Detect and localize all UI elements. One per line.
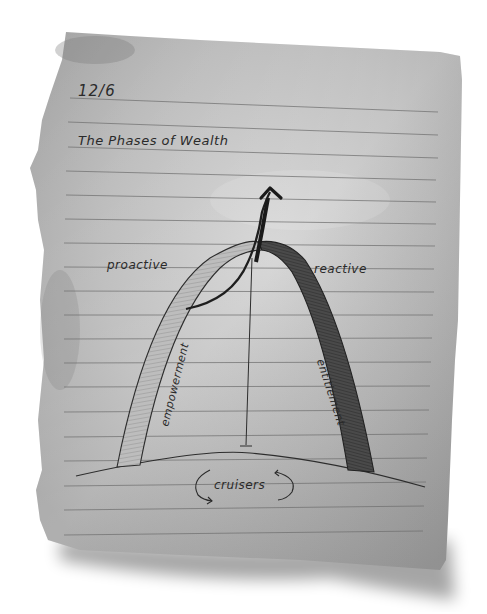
paper-illustration [0,0,487,614]
notepaper-diagram: 12/6 The Phases of Wealth proactive reac… [0,0,487,614]
note-title: The Phases of Wealth [78,133,228,148]
cruisers-label: cruisers [214,478,265,492]
note-date: 12/6 [78,82,116,100]
proactive-label: proactive [107,258,168,272]
reactive-label: reactive [314,262,367,276]
